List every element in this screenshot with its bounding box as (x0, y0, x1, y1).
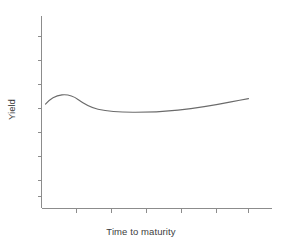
x-axis-ticks (77, 209, 249, 214)
x-axis-title: Time to maturity (0, 226, 282, 237)
series-yield-curve (46, 95, 249, 113)
y-axis-title: Yield (6, 90, 17, 130)
yield-curve-chart (0, 0, 282, 249)
chart-container: Time to maturity Yield (0, 0, 282, 249)
y-axis-ticks (38, 37, 42, 197)
